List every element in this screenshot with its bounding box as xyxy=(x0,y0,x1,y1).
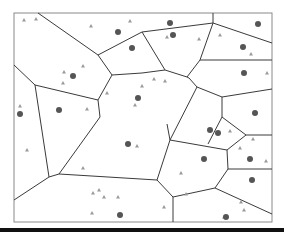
site-dot xyxy=(255,21,261,27)
site-dot xyxy=(240,44,246,50)
site-dot xyxy=(249,177,255,183)
site-dot xyxy=(17,111,23,117)
site-dot xyxy=(223,214,229,220)
site-dot xyxy=(207,127,213,133)
site-dot xyxy=(170,32,176,38)
site-dot xyxy=(201,156,207,162)
site-dot xyxy=(241,70,247,76)
site-dot xyxy=(215,130,221,136)
site-dot xyxy=(129,45,135,51)
site-dot xyxy=(125,141,131,147)
site-dot xyxy=(115,29,121,35)
site-dot xyxy=(56,107,62,113)
site-dot xyxy=(167,20,173,26)
diagram-frame xyxy=(14,13,272,222)
site-dot xyxy=(70,73,76,79)
voronoi-diagram xyxy=(0,0,284,235)
site-dot xyxy=(117,212,123,218)
site-dot xyxy=(252,110,258,116)
site-dot xyxy=(135,95,141,101)
bottom-divider-bar xyxy=(0,228,284,232)
site-dot xyxy=(247,156,253,162)
